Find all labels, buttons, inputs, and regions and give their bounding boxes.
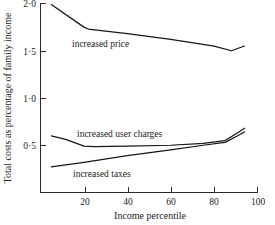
y-tick-label-1-5: 1·5 (23, 47, 36, 57)
chart-figure: 2·0 1·5 1·0 0·5 20 40 60 80 100 Income p… (0, 0, 275, 225)
series-label-increased-taxes: increased taxes (73, 169, 131, 179)
x-tick-label-100: 100 (251, 197, 266, 207)
y-axis-title: Total costs as percentage of family inco… (2, 12, 13, 183)
x-tick-label-40: 40 (123, 197, 133, 207)
y-tick-label-2-0: 2·0 (23, 0, 36, 9)
line-chart: 2·0 1·5 1·0 0·5 20 40 60 80 100 Income p… (0, 0, 275, 225)
x-tick-label-20: 20 (80, 197, 90, 207)
series-label-increased-price: increased price (72, 39, 129, 49)
y-tick-label-1-0: 1·0 (23, 94, 36, 104)
y-tick-label-0-5: 0·5 (23, 141, 36, 151)
x-tick-label-80: 80 (209, 197, 219, 207)
x-tick-label-60: 60 (166, 197, 176, 207)
x-axis-title: Income percentile (114, 210, 186, 221)
series-label-increased-user-charges: increased user charges (77, 129, 163, 139)
